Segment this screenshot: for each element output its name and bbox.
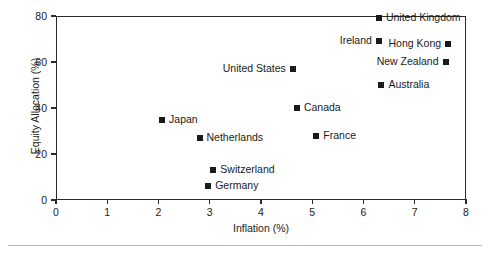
data-point-marker xyxy=(313,133,319,139)
data-point-marker xyxy=(205,183,211,189)
data-point-label: Netherlands xyxy=(207,132,264,143)
x-tick-label: 6 xyxy=(349,206,379,218)
x-tick-label: 3 xyxy=(195,206,225,218)
x-tick-mark xyxy=(312,199,313,204)
data-point-marker xyxy=(210,167,216,173)
footer-divider xyxy=(8,245,482,246)
data-point-marker xyxy=(197,135,203,141)
x-tick-label: 5 xyxy=(297,206,327,218)
data-point-marker xyxy=(290,66,296,72)
data-point-marker xyxy=(376,38,382,44)
x-tick-label: 7 xyxy=(400,206,430,218)
data-point-marker xyxy=(378,82,384,88)
y-axis-label: Equity Allocation (%) xyxy=(29,16,41,196)
y-tick-mark xyxy=(51,61,56,62)
x-tick-mark xyxy=(414,199,415,204)
data-point-label: Canada xyxy=(304,102,341,113)
data-point-label: Switzerland xyxy=(220,164,274,175)
data-point-label: United Kingdom xyxy=(386,12,461,23)
x-tick-mark xyxy=(107,199,108,204)
data-point-label: Germany xyxy=(215,180,258,191)
data-point-label: United States xyxy=(223,63,286,74)
data-point-marker xyxy=(445,41,451,47)
data-point-marker xyxy=(294,105,300,111)
data-point-label: Japan xyxy=(169,114,198,125)
x-tick-label: 0 xyxy=(41,206,71,218)
data-point-label: France xyxy=(323,130,356,141)
data-point-marker xyxy=(443,59,449,65)
data-point-label: New Zealand xyxy=(377,56,439,67)
x-tick-label: 8 xyxy=(451,206,481,218)
x-tick-label: 2 xyxy=(144,206,174,218)
data-point-label: Australia xyxy=(388,79,429,90)
x-tick-mark xyxy=(363,199,364,204)
x-tick-label: 1 xyxy=(92,206,122,218)
y-tick-mark xyxy=(51,107,56,108)
data-point-label: Hong Kong xyxy=(389,38,442,49)
x-tick-label: 4 xyxy=(246,206,276,218)
x-tick-mark xyxy=(465,199,466,204)
y-tick-mark xyxy=(51,15,56,16)
y-tick-mark xyxy=(51,153,56,154)
y-tick-mark xyxy=(51,199,56,200)
x-tick-mark xyxy=(260,199,261,204)
data-point-label: Ireland xyxy=(340,35,372,46)
scatter-chart-figure: 012345678 020406080 United KingdomIrelan… xyxy=(0,0,490,253)
data-point-marker xyxy=(159,117,165,123)
x-axis-label: Inflation (%) xyxy=(56,222,466,234)
data-point-marker xyxy=(376,15,382,21)
x-tick-mark xyxy=(158,199,159,204)
x-tick-mark xyxy=(209,199,210,204)
